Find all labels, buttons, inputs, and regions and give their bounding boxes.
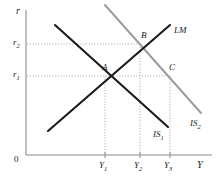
tick-label-y3: Y3 xyxy=(164,161,172,172)
x-axis-label: Y xyxy=(197,160,203,170)
tick-label-r2-subscript: 2 xyxy=(17,42,20,49)
curve-is2 xyxy=(105,5,201,113)
tick-label-y1: Y1 xyxy=(99,161,107,172)
tick-label-y2: Y2 xyxy=(134,161,142,172)
curve-label-is2-base: IS xyxy=(190,118,198,128)
y-axis-label: r xyxy=(16,6,20,16)
tick-label-y1-subscript: 1 xyxy=(104,165,107,172)
curve-label-is1-subscript: 1 xyxy=(161,134,164,141)
is-lm-diagram: r Y 0 r2 r1 Y1 Y2 Y3 A B C LM IS1 IS2 xyxy=(0,0,218,178)
origin-label: 0 xyxy=(14,155,19,164)
curve-label-is2-subscript: 2 xyxy=(198,123,201,130)
curve-label-is1: IS1 xyxy=(153,130,164,141)
curve-lm xyxy=(48,25,170,131)
tick-label-y3-subscript: 3 xyxy=(169,165,172,172)
tick-label-r2: r2 xyxy=(13,38,20,49)
point-label-b: B xyxy=(141,31,147,40)
tick-label-y2-subscript: 2 xyxy=(139,165,142,172)
tick-label-r1: r1 xyxy=(13,70,20,81)
curve-label-is2: IS2 xyxy=(190,119,201,130)
curve-label-lm: LM xyxy=(174,26,187,35)
curve-label-is1-base: IS xyxy=(153,129,161,139)
point-label-a: A xyxy=(102,63,108,72)
point-label-c: C xyxy=(169,63,175,72)
tick-label-r1-subscript: 1 xyxy=(17,74,20,81)
